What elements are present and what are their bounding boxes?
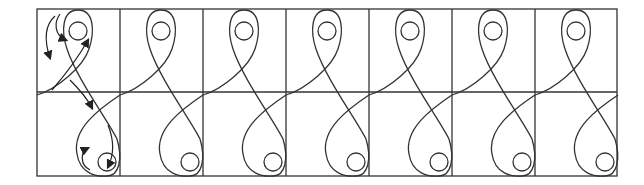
figure-eight-column-7 [535, 10, 618, 176]
arrow-icon [46, 16, 55, 58]
figure-eight-grid-diagram [0, 0, 644, 185]
figure-eight-column-2 [120, 10, 203, 176]
grid-frame [37, 9, 617, 176]
figure-eight-column-3 [203, 10, 286, 176]
arrow-icon [82, 148, 90, 170]
figure-eight-column-6 [452, 10, 535, 176]
figure-eight-column-5 [369, 10, 452, 176]
figure-eight-column-1 [37, 10, 120, 176]
arrow-icon [108, 125, 113, 167]
figure-eight-column-4 [286, 10, 369, 176]
arrow-icon [70, 80, 92, 108]
